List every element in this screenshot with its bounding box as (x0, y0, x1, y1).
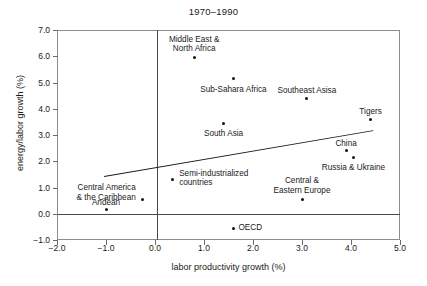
y-tick (53, 30, 58, 31)
y-tick-label: 2.0 (0, 157, 50, 166)
x-tick-label: 0.0 (135, 244, 175, 253)
x-tick-label: −1.0 (86, 244, 126, 253)
data-point-label: Central & Eastern Europe (274, 176, 331, 195)
y-tick-label: 6.0 (0, 52, 50, 61)
data-point-label: China (335, 139, 356, 148)
y-tick-label: 4.0 (0, 105, 50, 114)
x-tick-label: 5.0 (380, 244, 420, 253)
data-point-label: Sub-Sahara Africa (200, 85, 266, 94)
data-point-label: Middle East & North Africa (169, 35, 220, 54)
data-point-label: Andean (92, 198, 120, 207)
data-point[interactable] (105, 208, 108, 211)
data-point[interactable] (222, 122, 225, 125)
y-tick (53, 83, 58, 84)
data-point[interactable] (193, 56, 196, 59)
y-tick (53, 56, 58, 57)
data-point[interactable] (301, 198, 304, 201)
x-tick-label: 1.0 (184, 244, 224, 253)
data-point[interactable] (232, 227, 235, 230)
y-axis-title: energy/labor growth (%) (15, 33, 25, 213)
data-point[interactable] (345, 149, 348, 152)
data-point[interactable] (369, 118, 372, 121)
data-point[interactable] (352, 156, 355, 159)
y-tick-label: 0.0 (0, 210, 50, 219)
y-tick-label: 7.0 (0, 26, 50, 35)
y-tick-label: 3.0 (0, 131, 50, 140)
data-point-label: Southeast Asisa (278, 86, 337, 95)
x-zero-axis (157, 30, 158, 240)
y-tick (53, 161, 58, 162)
data-point-label: Russia & Ukraine (322, 163, 385, 172)
data-point-label: Semi-industrialized countries (179, 169, 248, 188)
chart-title: 1970–1990 (0, 6, 427, 17)
x-tick-label: 3.0 (282, 244, 322, 253)
y-zero-axis (57, 214, 400, 215)
y-tick (53, 135, 58, 136)
data-point-label: South Asia (204, 129, 243, 138)
y-tick-label: 5.0 (0, 79, 50, 88)
chart-figure: 1970–1990 −1.00.01.02.03.04.05.06.07.0−2… (0, 0, 427, 286)
y-tick (53, 214, 58, 215)
data-point-label: OECD (238, 223, 262, 232)
x-tick-label: −2.0 (37, 244, 77, 253)
x-tick-label: 4.0 (331, 244, 371, 253)
y-tick (53, 188, 58, 189)
data-point[interactable] (232, 77, 235, 80)
x-tick-label: 2.0 (233, 244, 273, 253)
x-axis-title: labor productivity growth (%) (57, 262, 400, 272)
data-point[interactable] (171, 178, 174, 181)
y-tick-label: 1.0 (0, 184, 50, 193)
y-tick (53, 109, 58, 110)
data-point-label: Tigers (359, 107, 381, 116)
